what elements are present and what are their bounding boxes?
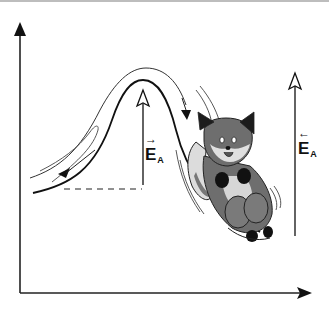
ea-left-label: EA <box>145 146 164 165</box>
direction-arrow-left <box>58 168 70 178</box>
direction-arrow-right <box>181 110 191 120</box>
ea-right-main: E <box>298 139 309 158</box>
energy-diagram <box>0 0 329 320</box>
fox-foot-left <box>246 230 258 242</box>
ea-left-main: E <box>145 145 156 164</box>
ea-right-small-arrow: ← <box>298 127 310 139</box>
fox-foot-right <box>263 226 273 238</box>
x-axis-arrow <box>20 287 312 299</box>
fox-cartoon <box>188 112 273 242</box>
diagram-canvas: → EA ← EA <box>0 0 329 320</box>
y-axis-arrow <box>14 22 26 293</box>
fox-knee-right <box>244 193 268 223</box>
fox-paw-left <box>215 172 229 188</box>
ea-right-sub: A <box>310 149 317 159</box>
ea-right-label: EA <box>298 140 317 159</box>
ea-left-sub: A <box>157 155 164 165</box>
fox-paw-right <box>237 168 251 184</box>
ea-left-small-arrow: → <box>145 133 157 145</box>
